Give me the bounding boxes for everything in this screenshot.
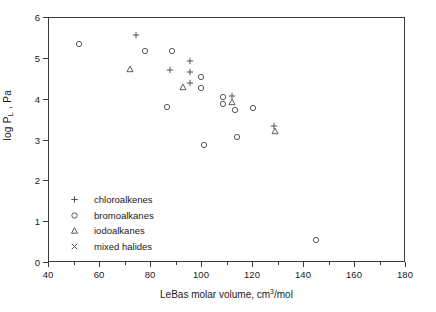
x-tick-minor <box>380 262 381 265</box>
x-tick-minor <box>125 262 126 265</box>
x-tick-label: 80 <box>145 269 156 280</box>
data-point-bromoalkanes <box>141 48 148 55</box>
data-point-bromoalkanes <box>75 40 82 47</box>
legend-marker-plus-icon <box>62 196 86 203</box>
x-tick-minor <box>227 262 228 265</box>
x-tick <box>354 262 355 267</box>
data-point-bromoalkanes <box>219 100 226 107</box>
data-point-bromoalkanes <box>200 142 207 149</box>
legend-label: iodoalkanes <box>86 225 145 236</box>
legend-label: mixed halides <box>86 241 152 252</box>
x-tick <box>405 262 406 267</box>
data-point-bromoalkanes <box>168 47 175 54</box>
y-tick <box>43 99 48 100</box>
data-point-chloroalkenes <box>186 58 193 65</box>
data-point-chloroalkenes <box>132 31 139 38</box>
x-tick-label: 140 <box>295 269 311 280</box>
data-point-iodoalkanes <box>271 127 278 134</box>
y-tick <box>43 17 48 18</box>
y-axis-title: log PL , Pa <box>2 90 16 141</box>
y-tick-label: 6 <box>35 12 40 23</box>
x-axis-title-main: LeBas molar volume, cm <box>160 289 270 300</box>
y-tick <box>43 221 48 222</box>
x-tick-label: 60 <box>94 269 105 280</box>
x-tick-label: 40 <box>43 269 54 280</box>
x-axis-title-tail: /mol <box>274 289 293 300</box>
y-tick-label: 2 <box>35 175 40 186</box>
legend-marker-cross-icon <box>62 243 86 250</box>
data-point-bromoalkanes <box>219 93 226 100</box>
x-tick-minor <box>176 262 177 265</box>
y-tick <box>43 140 48 141</box>
x-axis-title: LeBas molar volume, cm3/mol <box>48 288 405 300</box>
legend-item-mixed halides: mixed halides <box>62 239 187 255</box>
x-tick <box>99 262 100 267</box>
data-point-bromoalkanes <box>198 84 205 91</box>
data-point-chloroalkenes <box>186 69 193 76</box>
x-tick <box>252 262 253 267</box>
data-point-iodoalkanes <box>126 65 133 72</box>
x-tick <box>201 262 202 267</box>
data-point-bromoalkanes <box>232 107 239 114</box>
y-axis-title-main: log P <box>2 116 13 140</box>
data-point-bromoalkanes <box>198 74 205 81</box>
y-tick-label: 5 <box>35 52 40 63</box>
legend-marker-circle-icon <box>62 212 86 219</box>
data-point-chloroalkenes <box>167 67 174 74</box>
data-point-chloroalkenes <box>186 80 193 87</box>
x-tick-minor <box>329 262 330 265</box>
data-point-bromoalkanes <box>312 236 319 243</box>
figure: 0123456 406080100120140160180 log PL , P… <box>0 0 436 312</box>
legend-label: chloroalkenes <box>86 194 153 205</box>
y-tick <box>43 58 48 59</box>
y-tick-label: 0 <box>35 257 40 268</box>
y-tick-label: 1 <box>35 216 40 227</box>
x-tick-label: 120 <box>244 269 260 280</box>
y-tick-label: 4 <box>35 93 40 104</box>
legend-item-bromoalkanes: bromoalkanes <box>62 208 187 224</box>
legend-marker-triangle-icon <box>62 227 86 234</box>
x-tick <box>48 262 49 267</box>
y-axis-title-subscript: L <box>7 112 14 116</box>
legend: chloroalkenesbromoalkanesiodoalkanesmixe… <box>62 192 187 254</box>
x-tick-minor <box>74 262 75 265</box>
data-point-bromoalkanes <box>163 103 170 110</box>
y-axis-title-tail: , Pa <box>2 90 13 112</box>
data-point-bromoalkanes <box>233 134 240 141</box>
legend-label: bromoalkanes <box>86 210 154 221</box>
x-tick <box>303 262 304 267</box>
y-tick <box>43 180 48 181</box>
x-tick <box>150 262 151 267</box>
data-point-bromoalkanes <box>250 104 257 111</box>
data-point-iodoalkanes <box>228 98 235 105</box>
x-tick-label: 100 <box>193 269 209 280</box>
data-point-iodoalkanes <box>180 83 187 90</box>
legend-item-chloroalkenes: chloroalkenes <box>62 192 187 208</box>
x-tick-label: 180 <box>397 269 413 280</box>
x-tick-minor <box>278 262 279 265</box>
y-tick-label: 3 <box>35 134 40 145</box>
legend-item-iodoalkanes: iodoalkanes <box>62 223 187 239</box>
x-tick-label: 160 <box>346 269 362 280</box>
